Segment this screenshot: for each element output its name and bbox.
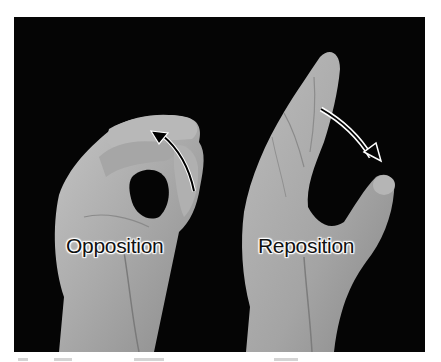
hand-figure: Opposition Reposition: [14, 17, 425, 352]
hands-illustration: [14, 17, 425, 352]
right-hand-reposition: [242, 52, 395, 352]
label-reposition: Reposition: [258, 234, 354, 258]
cropped-caption-remnant: [14, 356, 425, 362]
label-opposition: Opposition: [66, 234, 163, 258]
